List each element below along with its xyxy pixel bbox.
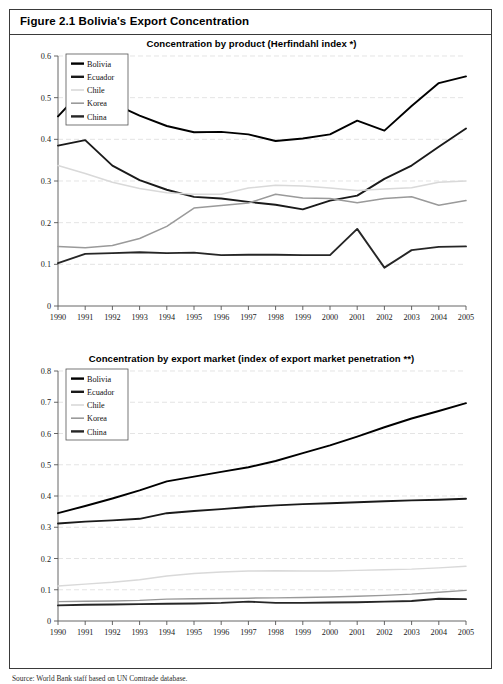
x-axis-tick-label: 2004 <box>431 313 447 322</box>
chart-2-title: Concentration by export market (index of… <box>10 353 493 364</box>
x-axis-tick-label: 1997 <box>240 628 256 637</box>
series-line-china <box>58 599 466 606</box>
series-line-korea <box>58 590 466 601</box>
y-axis-tick-label: 0.7 <box>41 398 51 407</box>
legend-label-korea: Korea <box>87 99 107 108</box>
y-axis-tick-label: 0.3 <box>41 177 51 186</box>
x-axis-tick-label: 2005 <box>458 313 474 322</box>
x-axis-tick-label: 1999 <box>295 313 311 322</box>
chart-concentration-by-export-market: Concentration by export market (index of… <box>10 353 493 653</box>
y-axis-tick-label: 0.2 <box>41 555 51 564</box>
series-line-chile <box>58 566 466 586</box>
x-axis-tick-label: 2004 <box>431 628 447 637</box>
y-axis-tick-label: 0.1 <box>41 586 51 595</box>
x-axis-tick-label: 1995 <box>186 628 202 637</box>
x-axis-tick-label: 2000 <box>322 628 338 637</box>
x-axis-tick-label: 1990 <box>50 628 66 637</box>
y-axis-tick-label: 0.5 <box>41 94 51 103</box>
series-line-ecuador <box>58 499 466 524</box>
y-axis-tick-label: 0.1 <box>41 260 51 269</box>
chart-concentration-by-product: Concentration by product (Herfindahl ind… <box>10 38 493 338</box>
x-axis-tick-label: 1991 <box>77 313 93 322</box>
x-axis-tick-label: 1997 <box>240 313 256 322</box>
x-axis-tick-label: 2003 <box>403 313 419 322</box>
chart-1-plot: 00.10.20.30.40.50.6199019911992199319941… <box>10 38 493 338</box>
legend-label-korea: Korea <box>87 414 107 423</box>
y-axis-tick-label: 0.4 <box>41 492 51 501</box>
x-axis-tick-label: 1992 <box>104 628 120 637</box>
figure-header: Figure 2.1 Bolivia's Export Concentratio… <box>10 10 491 35</box>
y-axis-tick-label: 0.6 <box>41 52 51 61</box>
y-axis-tick-label: 0.8 <box>41 367 51 376</box>
x-axis-tick-label: 1990 <box>50 313 66 322</box>
x-axis-tick-label: 1996 <box>213 628 229 637</box>
x-axis-tick-label: 1994 <box>159 313 175 322</box>
legend-label-chile: Chile <box>87 86 105 95</box>
x-axis-tick-label: 2001 <box>349 628 365 637</box>
figure-panel: Figure 2.1 Bolivia's Export Concentratio… <box>9 9 492 669</box>
x-axis-tick-label: 2001 <box>349 313 365 322</box>
x-axis-tick-label: 1998 <box>267 628 283 637</box>
x-axis-tick-label: 1991 <box>77 628 93 637</box>
y-axis-tick-label: 0.5 <box>41 461 51 470</box>
figure-title: Figure 2.1 Bolivia's Export Concentratio… <box>20 15 249 27</box>
legend-label-bolivia: Bolivia <box>87 60 111 69</box>
legend-label-chile: Chile <box>87 401 105 410</box>
x-axis-tick-label: 1999 <box>295 628 311 637</box>
legend-label-ecuador: Ecuador <box>87 73 115 82</box>
legend-label-bolivia: Bolivia <box>87 375 111 384</box>
legend-label-china: China <box>87 428 107 437</box>
x-axis-tick-label: 2002 <box>376 313 392 322</box>
x-axis-tick-label: 2000 <box>322 313 338 322</box>
x-axis-tick-label: 1995 <box>186 313 202 322</box>
y-axis-tick-label: 0.6 <box>41 430 51 439</box>
y-axis-tick-label: 0 <box>47 617 51 626</box>
x-axis-tick-label: 1992 <box>104 313 120 322</box>
series-line-korea <box>58 194 466 247</box>
y-axis-tick-label: 0.4 <box>41 135 51 144</box>
source-note: Source: World Bank staff based on UN Com… <box>12 674 187 683</box>
series-line-china <box>58 229 466 268</box>
y-axis-tick-label: 0 <box>47 302 51 311</box>
x-axis-tick-label: 2003 <box>403 628 419 637</box>
y-axis-tick-label: 0.3 <box>41 523 51 532</box>
legend-label-ecuador: Ecuador <box>87 388 115 397</box>
legend-label-china: China <box>87 113 107 122</box>
x-axis-tick-label: 2002 <box>376 628 392 637</box>
chart-2-plot: 00.10.20.30.40.50.60.70.8199019911992199… <box>10 353 493 653</box>
x-axis-tick-label: 1993 <box>131 628 147 637</box>
chart-1-title: Concentration by product (Herfindahl ind… <box>10 38 493 49</box>
x-axis-tick-label: 1994 <box>159 628 175 637</box>
x-axis-tick-label: 1993 <box>131 313 147 322</box>
x-axis-tick-label: 1996 <box>213 313 229 322</box>
x-axis-tick-label: 2005 <box>458 628 474 637</box>
x-axis-tick-label: 1998 <box>267 313 283 322</box>
y-axis-tick-label: 0.2 <box>41 219 51 228</box>
